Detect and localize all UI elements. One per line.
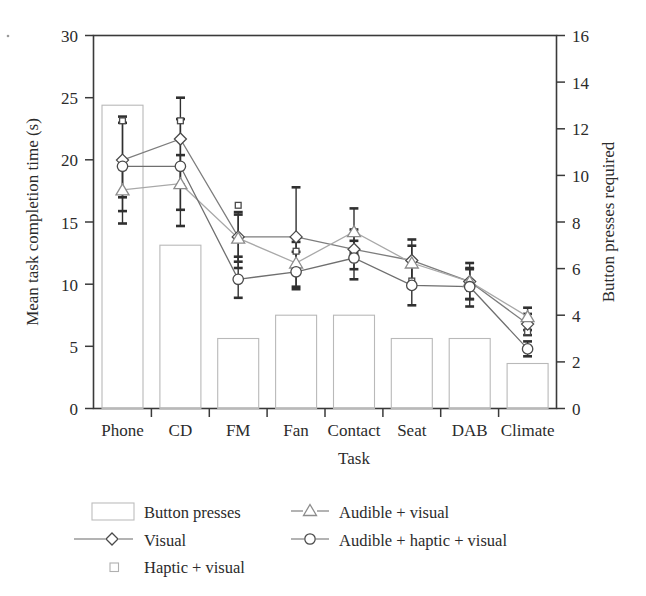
legend-circle-icon <box>305 534 315 544</box>
x-tick-label-contact: Contact <box>328 421 381 440</box>
left-axis-ticks <box>85 36 94 409</box>
right-axis-tick-labels: 16 14 12 10 8 6 4 2 0 <box>572 27 590 419</box>
legend-label: Audible + haptic + visual <box>339 531 507 550</box>
chart-legend: Button presses Audible + visual Visual A… <box>74 503 507 577</box>
bar-series-button-presses <box>102 105 548 408</box>
left-tick-label: 25 <box>61 89 78 108</box>
bar-climate <box>507 364 548 409</box>
bar-fm <box>218 339 259 409</box>
legend-small-square-icon <box>110 563 119 572</box>
right-axis-ticks <box>557 36 566 409</box>
bar-dab <box>449 339 490 409</box>
legend-rect-icon <box>92 503 134 520</box>
legend-label: Visual <box>144 531 187 550</box>
legend-label: Audible + visual <box>339 503 450 522</box>
chart-figure: 30 25 20 15 10 5 0 16 14 12 10 8 6 4 2 0 <box>0 0 646 596</box>
series-line-audible-haptic-visual <box>123 166 528 349</box>
legend-item-button-presses: Button presses <box>92 503 241 522</box>
scan-speck <box>7 35 10 38</box>
legend-item-haptic-visual: Haptic + visual <box>110 558 245 577</box>
bar-seat <box>391 339 432 409</box>
error-bars-audible-haptic-visual <box>118 117 532 357</box>
right-tick-label: 6 <box>572 260 581 279</box>
x-tick-label-cd: CD <box>169 421 193 440</box>
y-axis-title-right: Button presses required <box>599 141 618 302</box>
x-tick-label-dab: DAB <box>452 421 488 440</box>
right-tick-label: 12 <box>572 120 589 139</box>
legend-item-visual: Visual <box>74 531 187 550</box>
series-line-audible-visual <box>123 184 528 317</box>
left-tick-label: 30 <box>61 27 78 46</box>
plot-frame <box>94 36 557 409</box>
x-tick-label-climate: Climate <box>501 421 555 440</box>
right-tick-label: 10 <box>572 167 589 186</box>
legend-label: Button presses <box>144 503 241 522</box>
x-tick-label-fan: Fan <box>283 421 309 440</box>
left-tick-label: 5 <box>70 338 79 357</box>
left-tick-label: 0 <box>70 400 79 419</box>
x-tick-label-seat: Seat <box>397 421 427 440</box>
dual-axis-chart: 30 25 20 15 10 5 0 16 14 12 10 8 6 4 2 0 <box>0 0 646 596</box>
x-axis-title: Task <box>338 449 370 468</box>
right-tick-label: 0 <box>572 400 581 419</box>
legend-item-audible-visual: Audible + visual <box>291 503 450 522</box>
x-tick-label-fm: FM <box>226 421 251 440</box>
bar-cd <box>160 245 201 408</box>
right-tick-label: 16 <box>572 27 589 46</box>
bar-fan <box>276 315 317 408</box>
x-tick-label-phone: Phone <box>101 421 144 440</box>
y-axis-title-left: Mean task completion time (s) <box>23 118 42 326</box>
bar-contact <box>334 315 375 408</box>
markers-audible-haptic-visual <box>117 161 533 354</box>
right-tick-label: 14 <box>572 74 590 93</box>
x-axis-ticks <box>151 409 498 418</box>
legend-triangle-icon <box>304 505 317 516</box>
left-tick-label: 20 <box>61 151 78 170</box>
left-axis-tick-labels: 30 25 20 15 10 5 0 <box>61 27 78 419</box>
legend-item-audible-haptic-visual: Audible + haptic + visual <box>291 531 507 550</box>
left-tick-label: 15 <box>61 214 78 233</box>
x-axis-tick-labels: Phone CD FM Fan Contact Seat DAB Climate <box>101 421 554 440</box>
legend-diamond-icon <box>106 533 118 545</box>
right-tick-label: 8 <box>572 214 581 233</box>
right-tick-label: 4 <box>572 307 581 326</box>
legend-label: Haptic + visual <box>144 558 245 577</box>
right-tick-label: 2 <box>572 353 581 372</box>
left-tick-label: 10 <box>61 276 78 295</box>
